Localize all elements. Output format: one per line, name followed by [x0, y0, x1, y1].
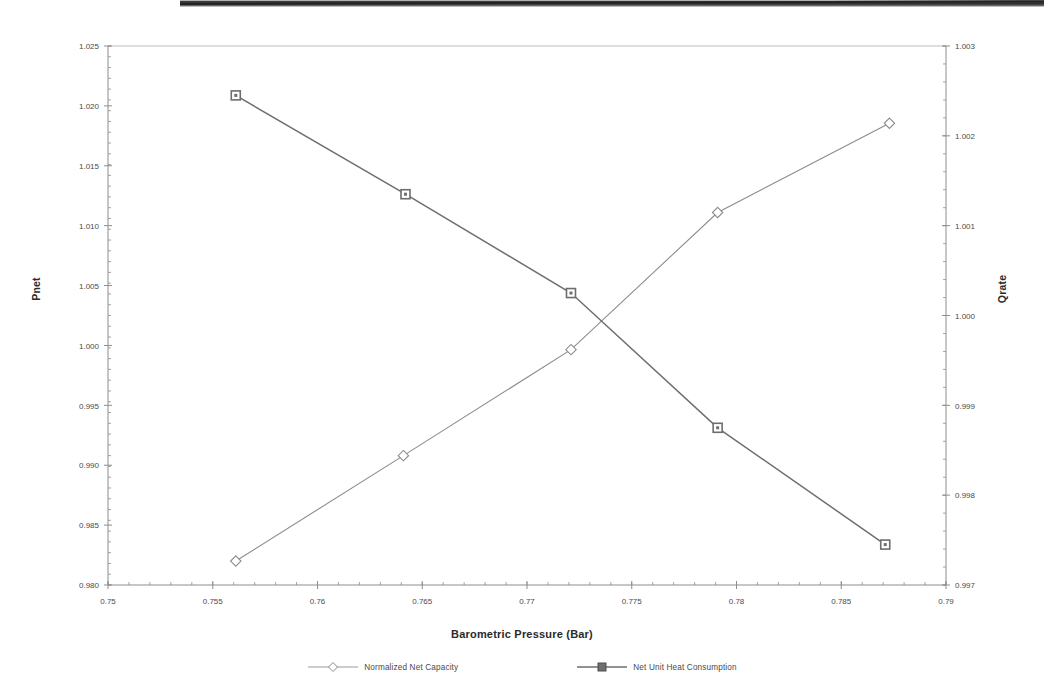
- y-axis-right-tick-label: 1.002: [955, 132, 976, 141]
- y-axis-left-tick-label: 1.010: [79, 222, 100, 231]
- x-axis-tick-label: 0.755: [203, 597, 224, 606]
- y-axis-left-tick-label: 0.980: [79, 581, 100, 590]
- x-axis-tick-label: 0.785: [831, 597, 852, 606]
- x-axis-tick-label: 0.75: [100, 597, 116, 606]
- line-chart-plot: 0.9800.9850.9900.9951.0001.0051.0101.015…: [0, 0, 1044, 692]
- y-axis-left-tick-label: 1.005: [79, 282, 100, 291]
- x-axis-tick-label: 0.77: [519, 597, 535, 606]
- y-axis-left-title: Pnet: [30, 277, 42, 301]
- y-axis-right-tick-label: 0.998: [955, 491, 976, 500]
- y-axis-right-tick-label: 0.997: [955, 581, 976, 590]
- series-line: [236, 95, 885, 544]
- data-point-marker-center: [569, 292, 572, 295]
- data-point-marker-center: [884, 543, 887, 546]
- y-axis-left-tick-label: 1.015: [79, 162, 100, 171]
- x-axis-tick-label: 0.78: [729, 597, 745, 606]
- series-line: [236, 123, 890, 561]
- y-axis-left-tick-label: 1.020: [79, 102, 100, 111]
- x-axis-tick-label: 0.76: [310, 597, 326, 606]
- data-point-marker[interactable]: [884, 118, 894, 128]
- y-axis-right-tick-label: 1.001: [955, 222, 976, 231]
- y-axis-left-tick-label: 0.990: [79, 461, 100, 470]
- data-point-marker-center: [234, 94, 237, 97]
- y-axis-left-tick-label: 0.995: [79, 402, 100, 411]
- y-axis-right-tick-label: 1.003: [955, 42, 976, 51]
- x-axis-tick-label: 0.765: [412, 597, 433, 606]
- y-axis-left-tick-label: 1.000: [79, 342, 100, 351]
- x-axis-title: Barometric Pressure (Bar): [0, 628, 1044, 640]
- y-axis-left-tick-label: 1.025: [79, 42, 100, 51]
- data-point-marker[interactable]: [231, 556, 241, 566]
- series-1: [231, 118, 895, 566]
- y-axis-left-tick-label: 0.985: [79, 521, 100, 530]
- x-axis-tick-label: 0.79: [938, 597, 954, 606]
- y-axis-right-tick-label: 1.000: [955, 312, 976, 321]
- data-point-marker-center: [716, 426, 719, 429]
- data-point-marker-center: [404, 193, 407, 196]
- y-axis-right-tick-label: 0.999: [955, 402, 976, 411]
- y-axis-right-title: Qrate: [996, 275, 1008, 303]
- data-point-marker[interactable]: [398, 450, 408, 460]
- x-axis-tick-label: 0.775: [622, 597, 643, 606]
- series-2: [231, 91, 889, 549]
- chart-figure: 0.9800.9850.9900.9951.0001.0051.0101.015…: [0, 0, 1044, 692]
